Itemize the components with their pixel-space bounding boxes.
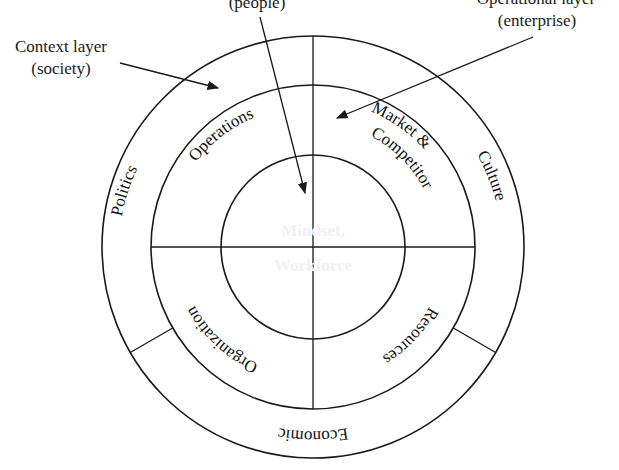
- core-label-line2: Workforce: [274, 256, 353, 275]
- middle-label-resources: Resources: [380, 304, 443, 369]
- outer-divider-lower-right: [453, 328, 495, 353]
- outer-label-economic: Economic: [276, 424, 350, 446]
- callout-operational-line1: Operational layer: [477, 0, 596, 8]
- callout-people: (people): [229, 0, 286, 12]
- callout-context-line2: (society): [31, 59, 90, 78]
- middle-label-operations: Operations: [184, 104, 256, 165]
- core-label-line1: Mindset,: [281, 221, 345, 240]
- callout-operational-line2: (enterprise): [498, 11, 576, 30]
- outer-label-culture: Culture: [473, 147, 510, 202]
- outer-divider-lower-left: [130, 328, 172, 353]
- layer-diagram: Mindset, Workforce Politics Culture Econ…: [0, 0, 619, 470]
- arrow-operational: [337, 37, 533, 118]
- outer-label-politics: Politics: [107, 162, 141, 218]
- callout-context-line1: Context layer: [15, 37, 107, 56]
- middle-label-organization: Organization: [181, 303, 260, 378]
